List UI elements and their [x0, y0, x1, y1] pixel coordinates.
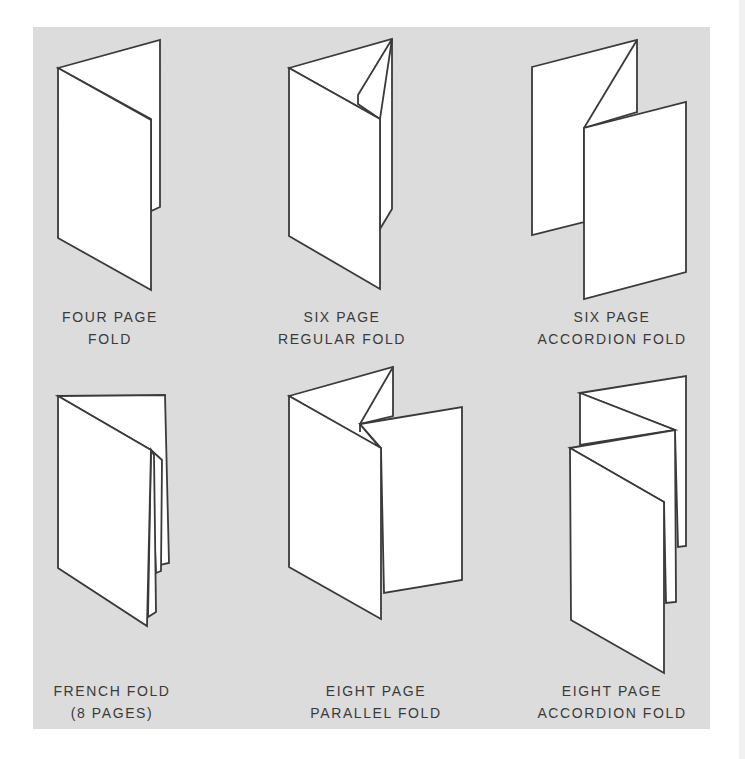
label-line-1: EIGHT PAGE	[310, 680, 441, 702]
label-eight-page-parallel-fold: EIGHT PAGE PARALLEL FOLD	[310, 680, 441, 724]
label-six-page-accordion-fold: SIX PAGE ACCORDION FOLD	[537, 306, 686, 350]
label-line-1: SIX PAGE	[537, 306, 686, 328]
four-page-fold-illustration	[58, 40, 160, 290]
label-line-1: FRENCH FOLD	[53, 680, 170, 702]
fold-diagrams	[0, 0, 745, 759]
label-line-1: SIX PAGE	[278, 306, 406, 328]
eight-page-accordion-fold-illustration	[570, 376, 686, 673]
six-page-regular-fold-illustration	[289, 39, 392, 289]
label-line-2: REGULAR FOLD	[278, 328, 406, 350]
french-fold-illustration	[58, 395, 169, 626]
label-line-2: PARALLEL FOLD	[310, 702, 441, 724]
label-line-2: ACCORDION FOLD	[537, 328, 686, 350]
label-line-1: EIGHT PAGE	[537, 680, 686, 702]
front-panel	[584, 102, 686, 299]
label-line-2: ACCORDION FOLD	[537, 702, 686, 724]
label-line-1: FOUR PAGE	[62, 306, 158, 328]
label-four-page-fold: FOUR PAGE FOLD	[62, 306, 158, 350]
label-six-page-regular-fold: SIX PAGE REGULAR FOLD	[278, 306, 406, 350]
label-line-2: FOLD	[62, 328, 158, 350]
six-page-accordion-fold-illustration	[532, 40, 686, 299]
label-line-2: (8 PAGES)	[53, 702, 170, 724]
label-french-fold: FRENCH FOLD (8 PAGES)	[53, 680, 170, 724]
eight-page-parallel-fold-illustration	[289, 367, 462, 619]
label-eight-page-accordion-fold: EIGHT PAGE ACCORDION FOLD	[537, 680, 686, 724]
